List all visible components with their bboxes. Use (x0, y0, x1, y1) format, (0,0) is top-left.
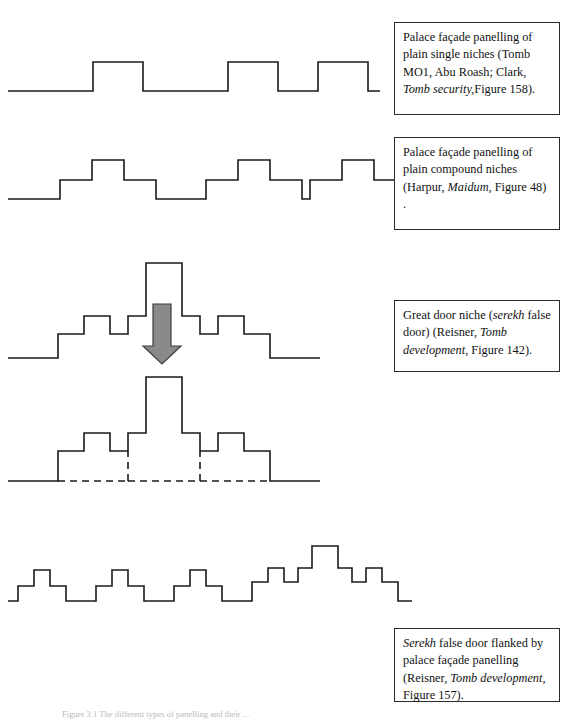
profile-path-great-door-recessed (8, 377, 320, 481)
diagram-serekh-flanked-by-panelling (0, 534, 390, 606)
caption-italic-title: development, (480, 671, 545, 685)
caption-italic-title: Maidum, (448, 180, 492, 194)
caption-line: MO1, Abu Roash; Clark, (403, 65, 526, 79)
caption-italic-title: Tomb (450, 671, 477, 685)
caption-box-serekh-flanked: Serekh false door flanked by palace faça… (394, 628, 560, 702)
caption-line: Great door niche ( (403, 308, 493, 322)
diagram-plain-compound-niches (0, 148, 390, 208)
down-arrow-icon (143, 304, 181, 364)
caption-italic-title: Tomb (480, 325, 507, 339)
caption-line: Palace façade panelling of (403, 145, 532, 159)
caption-italic-title: development, (403, 343, 468, 357)
caption-line: plain compound niches (403, 162, 517, 176)
caption-line: (Harpur, (403, 180, 448, 194)
diagram-great-door-niche-recessed (0, 383, 390, 488)
caption-line: Figure 158). (474, 82, 535, 96)
diagram-great-door-niche (0, 258, 390, 363)
caption-italic-title: Tomb security, (403, 82, 474, 96)
caption-box-compound-niches: Palace façade panelling of plain compoun… (394, 137, 560, 230)
caption-box-single-niches: Palace façade panelling of plain single … (394, 22, 560, 115)
caption-line: Figure 142). (468, 343, 532, 357)
diagram-plain-single-niches (0, 46, 390, 98)
figure-page: Palace façade panelling of plain single … (0, 0, 570, 721)
caption-line: Palace façade panelling of (403, 30, 532, 44)
profile-path-single-niches (8, 62, 380, 91)
caption-line: plain single niches (Tomb (403, 47, 530, 61)
caption-italic-term: Serekh (403, 636, 436, 650)
down-arrow-shape (143, 304, 181, 364)
figure-caption: Figure 3.1 The different types of panell… (62, 709, 492, 720)
caption-italic-term: serekh (493, 308, 525, 322)
caption-box-great-door: Great door niche (serekh false door) (Re… (394, 300, 560, 372)
caption-line: (Reisner, (403, 671, 450, 685)
profile-path-serekh-flanked (8, 546, 412, 601)
caption-line: false door flanked (436, 636, 528, 650)
profile-path-compound-niches (8, 160, 412, 199)
caption-line: Figure 157). (403, 688, 464, 702)
caption-line: Figure (492, 180, 527, 194)
